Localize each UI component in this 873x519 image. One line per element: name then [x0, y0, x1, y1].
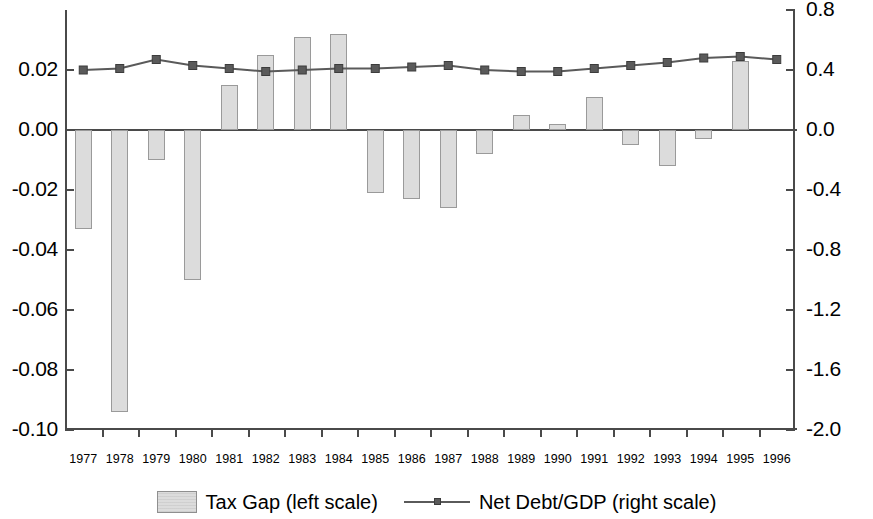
legend-label-net-debt-gdp: Net Debt/GDP (right scale) — [479, 491, 717, 514]
x-label-1982: 1982 — [248, 452, 285, 466]
plot-area — [65, 10, 795, 430]
x-label-1977: 1977 — [65, 452, 102, 466]
x-tick — [722, 430, 724, 437]
x-tick — [394, 430, 396, 437]
x-tick — [686, 430, 688, 437]
line-marker-1985 — [371, 65, 379, 73]
legend-line-icon — [404, 495, 470, 509]
x-label-1993: 1993 — [649, 452, 686, 466]
line-marker-1987 — [444, 62, 452, 70]
line-marker-1983 — [298, 66, 306, 74]
x-tick — [759, 430, 761, 437]
right-tick-label: -2.0 — [806, 417, 841, 441]
left-tick-label: 0.00 — [18, 117, 58, 141]
left-tick-label: 0.02 — [18, 57, 58, 81]
line-marker-1986 — [408, 63, 416, 71]
line-marker-1996 — [773, 56, 781, 64]
line-marker-1978 — [116, 65, 124, 73]
line-marker-1991 — [590, 65, 598, 73]
x-tick — [248, 430, 250, 437]
right-tick-label: -0.4 — [806, 177, 841, 201]
x-tick — [357, 430, 359, 437]
x-tick — [613, 430, 615, 437]
x-axis-labels: 1977197819791980198119821983198419851986… — [65, 452, 795, 472]
x-label-1988: 1988 — [467, 452, 504, 466]
line-series — [65, 10, 795, 430]
right-tick-label: 0.4 — [806, 57, 834, 81]
x-label-1981: 1981 — [211, 452, 248, 466]
line-marker-1994 — [700, 54, 708, 62]
right-tick-label: -1.2 — [806, 297, 841, 321]
x-label-1978: 1978 — [102, 452, 139, 466]
x-label-1980: 1980 — [175, 452, 212, 466]
x-tick — [211, 430, 213, 437]
x-label-1992: 1992 — [613, 452, 650, 466]
x-tick — [576, 430, 578, 437]
x-label-1994: 1994 — [686, 452, 723, 466]
x-tick — [430, 430, 432, 437]
left-axis-labels: 0.020.00-0.02-0.04-0.06-0.08-0.10 — [0, 10, 58, 430]
x-label-1990: 1990 — [540, 452, 577, 466]
line-marker-1981 — [225, 65, 233, 73]
line-marker-1988 — [481, 66, 489, 74]
line-marker-1990 — [554, 68, 562, 76]
x-tick — [175, 430, 177, 437]
right-tick-label: 0.0 — [806, 117, 834, 141]
x-tick — [540, 430, 542, 437]
x-tick — [503, 430, 505, 437]
x-tick — [321, 430, 323, 437]
line-marker-1989 — [517, 68, 525, 76]
x-label-1983: 1983 — [284, 452, 321, 466]
left-tick-label: -0.02 — [12, 177, 58, 201]
legend-swatch-icon — [157, 491, 197, 513]
line-marker-1995 — [736, 53, 744, 61]
x-tick — [467, 430, 469, 437]
line-marker-1984 — [335, 65, 343, 73]
x-label-1986: 1986 — [394, 452, 431, 466]
x-tick — [102, 430, 104, 437]
line-marker-1992 — [627, 62, 635, 70]
x-tick — [649, 430, 651, 437]
right-axis-labels: 0.80.40.0-0.4-0.8-1.2-1.6-2.0 — [806, 10, 873, 430]
left-tick-label: -0.06 — [12, 297, 58, 321]
x-tick — [284, 430, 286, 437]
left-tick-label: -0.08 — [12, 357, 58, 381]
x-label-1979: 1979 — [138, 452, 175, 466]
legend-item-tax-gap: Tax Gap (left scale) — [157, 491, 378, 514]
x-label-1987: 1987 — [430, 452, 467, 466]
right-tick-label: -1.6 — [806, 357, 841, 381]
x-label-1984: 1984 — [321, 452, 358, 466]
x-label-1985: 1985 — [357, 452, 394, 466]
x-tick — [138, 430, 140, 437]
chart-legend: Tax Gap (left scale) Net Debt/GDP (right… — [0, 487, 873, 517]
chart-root: 0.020.00-0.02-0.04-0.06-0.08-0.10 0.80.4… — [0, 0, 873, 519]
line-marker-1980 — [189, 62, 197, 70]
line-marker-1977 — [79, 66, 87, 74]
left-tick-label: -0.10 — [12, 417, 58, 441]
x-label-1996: 1996 — [759, 452, 796, 466]
legend-item-net-debt-gdp: Net Debt/GDP (right scale) — [404, 491, 717, 514]
line-marker-1979 — [152, 56, 160, 64]
left-tick-label: -0.04 — [12, 237, 58, 261]
right-tick-label: -0.8 — [806, 237, 841, 261]
net-debt-gdp-line — [83, 57, 777, 72]
x-label-1995: 1995 — [722, 452, 759, 466]
right-tick-label: 0.8 — [806, 0, 834, 21]
line-marker-1982 — [262, 68, 270, 76]
x-label-1989: 1989 — [503, 452, 540, 466]
line-marker-1993 — [663, 59, 671, 67]
legend-label-tax-gap: Tax Gap (left scale) — [206, 491, 378, 514]
x-label-1991: 1991 — [576, 452, 613, 466]
